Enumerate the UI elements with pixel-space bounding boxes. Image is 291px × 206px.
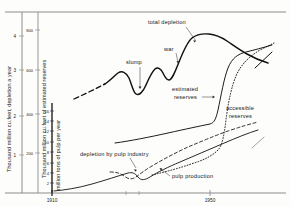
arrowhead-depletion-by-pulp	[134, 169, 137, 172]
tick-label-middle-400: 400	[26, 112, 34, 117]
annotation-label-total-depletion: total depletion	[148, 19, 186, 25]
tick-label-outer-2: 2	[13, 114, 16, 119]
axis-title-outer-left: Thousand million cu.feet, depletion a ye…	[6, 66, 12, 172]
series-pulp-production	[54, 130, 258, 191]
chart-canvas: 1 2 3 4 200 400 600 800 2 4	[0, 0, 291, 206]
annotation-total-depletion: total depletion	[148, 19, 196, 43]
xtick-label-1910: 1910	[47, 198, 58, 203]
tick-label-middle-600: 600	[26, 68, 34, 73]
xtick-label-1950: 1950	[205, 198, 216, 203]
tick-label-middle-800: 800	[26, 28, 34, 33]
tick-label-outer-4: 4	[13, 34, 16, 39]
pulp-production-curve	[54, 130, 258, 191]
arrowhead-estimated-reserves	[213, 96, 215, 99]
annotation-accessible-reserves: accessible reserves	[226, 105, 254, 119]
series-accessible-reserves	[152, 43, 274, 175]
tick-label-inner-6: 6	[47, 161, 50, 166]
annotation-label-estimated-reserves-line1: estimated	[172, 86, 198, 92]
annotation-label-accessible-reserves-line2: reserves	[229, 113, 252, 119]
tick-label-outer-1: 1	[13, 153, 16, 158]
tick-label-inner-8: 8	[47, 150, 50, 155]
annotation-depletion-by-pulp-industry: depletion by pulp industry	[80, 151, 149, 172]
leader-war	[176, 53, 178, 62]
annotation-pulp-production: pulp production	[160, 168, 214, 179]
annotation-estimated-reserves: estimated reserves	[172, 86, 215, 100]
annotation-label-depletion-by-pulp: depletion by pulp industry	[80, 151, 149, 157]
arrowhead-slump	[138, 87, 141, 89]
tick-label-outer-3: 3	[13, 68, 16, 73]
chart-figure: 1 2 3 4 200 400 600 800 2 4	[0, 0, 291, 206]
annotation-label-accessible-reserves-line1: accessible	[226, 105, 254, 111]
axis-bottom-ticks: 1910 1950	[47, 190, 216, 203]
annotation-label-pulp-production: pulp production	[172, 173, 213, 179]
accessible-reserves-curve	[152, 43, 274, 175]
axis-title-inner-left: million tons of pulp per year	[55, 120, 61, 190]
leader-depletion-by-pulp	[130, 158, 136, 168]
tick-label-middle-200: 200	[26, 151, 34, 156]
annotation-label-war: war	[163, 46, 174, 52]
tick-label-inner-4: 4	[47, 171, 50, 176]
annotation-label-estimated-reserves-line2: reserves	[174, 94, 197, 100]
axis-title-middle-left: Thousand million cu.feet of estimated re…	[41, 59, 47, 178]
annotation-war: war	[163, 46, 180, 64]
annotation-label-slump: slump	[126, 59, 142, 65]
tick-label-inner-2: 2	[47, 181, 50, 186]
total-depletion-dashed-lead	[74, 84, 105, 99]
right-tail-stroke	[252, 137, 264, 148]
annotation-slump: slump	[126, 59, 142, 89]
